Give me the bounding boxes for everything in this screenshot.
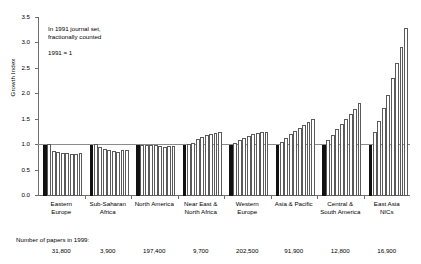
bar [335,129,339,196]
paper-count-value: 197,400 [131,247,178,254]
paper-count-value: 16,900 [364,247,411,254]
bar [158,146,162,196]
bar [167,146,171,196]
bar [74,154,78,196]
y-tick-label: 0.0 [21,192,30,198]
paper-count-value: 91,900 [271,247,318,254]
bar [280,142,284,196]
y-tick-label: 3.0 [21,39,30,45]
bar [163,147,167,196]
footer-title: Number of papers in 1999: [16,236,89,243]
bar [400,47,404,196]
bar [149,145,153,196]
category-label: Central & South America [317,200,364,222]
bar [293,131,297,196]
bar-baseline-year [322,145,326,196]
growth-index-chart: Growth Index 0.00.51.01.52.02.53.03.5 In… [0,0,421,264]
paper-count-value: 9,700 [178,247,225,254]
bar [238,140,242,196]
bar [107,150,111,196]
paper-count-value: 12,800 [317,247,364,254]
paper-count-value: 31,800 [38,247,85,254]
group-separator-tick [131,196,132,199]
group-separator-tick [317,196,318,199]
bar [233,143,237,196]
bar [340,124,344,196]
category-label: Western Europe [224,200,271,222]
bar-group [364,18,411,196]
group-separator-tick [364,196,365,199]
bar [196,139,200,196]
y-tick-label: 1.0 [21,141,30,147]
category-label: East Asia NICs [364,200,411,222]
bar [103,149,107,196]
category-label: Asia & Pacific [271,200,318,222]
bar [247,136,251,196]
bar [79,153,83,196]
bar [349,114,353,196]
bar-group [178,18,225,196]
bar [284,138,288,196]
bar [47,144,51,196]
bar [265,132,269,196]
bar-baseline-year [136,145,140,196]
bar [61,153,65,196]
bar [386,95,390,196]
bar-groups [38,18,410,196]
bar [172,146,176,196]
category-label: Near East & North Africa [178,200,225,222]
paper-count-value: 202,500 [224,247,271,254]
bar [373,132,377,196]
bar [187,144,191,196]
bar [154,145,158,196]
bar [145,145,149,196]
bar-group [224,18,271,196]
bar [331,135,335,196]
bar-baseline-year [369,145,373,196]
bar [140,145,144,196]
group-separator-tick [178,196,179,199]
bar-baseline-year [90,145,94,196]
bar [125,150,129,196]
category-labels: Eastern EuropeSub-Saharan AfricaNorth Am… [38,200,410,222]
bar [205,135,209,196]
bar-group [317,18,364,196]
bar [251,134,255,196]
bar [302,125,306,196]
bar [260,132,264,196]
bar-baseline-year [43,145,47,196]
bar [56,152,60,196]
bar [214,133,218,196]
group-separator-tick [271,196,272,199]
category-label: Sub-Saharan Africa [85,200,132,222]
y-tick-label: 2.0 [21,90,30,96]
bar [65,153,69,196]
y-tick-label: 3.5 [21,14,30,20]
bar [209,134,213,196]
paper-counts-row: 31,8003,900197,4009,700202,50091,90012,8… [38,247,410,254]
bar [218,132,222,196]
bar [395,63,399,196]
bar-group [271,18,318,196]
y-tick-label: 2.5 [21,65,30,71]
bar [121,150,125,196]
bar [326,140,330,196]
bar [382,108,386,196]
bar [94,144,98,196]
bar [256,133,260,196]
bar-baseline-year [183,145,187,196]
bar [377,121,381,196]
bar [307,122,311,196]
plot-area: 0.00.51.01.52.02.53.03.5 In 1991 journal… [38,18,410,196]
bar [353,109,357,196]
group-separator-tick [85,196,86,199]
bar [391,78,395,196]
paper-count-value: 3,900 [85,247,132,254]
bar [289,134,293,196]
bar-baseline-year [229,145,233,196]
group-separator-tick [224,196,225,199]
bar-group [85,18,132,196]
bar-group [131,18,178,196]
bar [52,151,56,196]
bar [358,103,362,196]
